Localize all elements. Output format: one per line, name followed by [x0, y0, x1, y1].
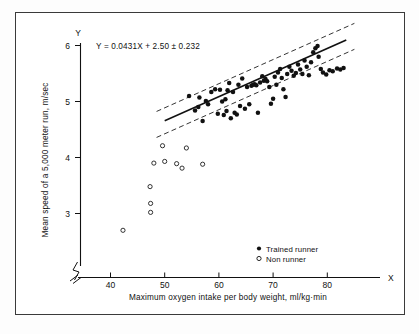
data-point-trained	[200, 119, 205, 124]
data-point-trained	[254, 83, 259, 88]
y-ticks-group: 3456	[65, 41, 80, 219]
data-point-trained	[229, 116, 234, 121]
data-point-trained	[231, 90, 236, 95]
x-tick-label: 80	[323, 280, 333, 290]
data-point-trained	[281, 87, 286, 92]
data-point-nonrunner	[149, 201, 153, 205]
data-point-trained	[216, 112, 221, 117]
data-point-nonrunner	[163, 159, 167, 163]
data-point-trained	[311, 50, 316, 55]
data-point-trained	[278, 67, 283, 72]
data-points-nonrunner	[121, 144, 205, 233]
data-point-trained	[247, 102, 252, 107]
x-ticks-group: 4050607080	[106, 273, 333, 291]
data-point-trained	[218, 87, 223, 92]
data-point-trained	[206, 102, 211, 107]
y-tick-label: 4	[65, 153, 70, 163]
legend-label-nonrunner: Non runner	[266, 255, 306, 264]
data-point-trained	[330, 69, 335, 74]
scatter-plot: Y X 3456 4050607080 Y = 0.0431X + 2.50 ±…	[0, 0, 419, 334]
regression-equation-label: Y = 0.0431X + 2.50 ± 0.232	[96, 42, 200, 51]
data-point-trained	[304, 65, 309, 70]
data-point-nonrunner	[152, 161, 156, 165]
data-point-trained	[240, 76, 245, 81]
data-point-trained	[269, 101, 274, 106]
data-point-trained	[209, 90, 214, 95]
data-point-trained	[225, 88, 230, 93]
axes-group: Y X	[70, 28, 394, 284]
regression-group	[157, 23, 355, 137]
data-point-trained	[223, 97, 228, 102]
data-point-trained	[287, 65, 292, 70]
axis-break-icon	[70, 262, 81, 284]
confidence-band-lower	[157, 49, 355, 137]
data-point-trained	[238, 104, 243, 109]
data-point-trained	[256, 110, 261, 115]
data-point-trained	[296, 62, 301, 67]
y-tick-label: 6	[65, 41, 70, 51]
data-point-trained	[307, 73, 312, 78]
data-point-trained	[315, 44, 320, 49]
legend-marker-nonrunner-icon	[257, 256, 261, 260]
data-point-nonrunner	[160, 144, 164, 148]
y-axis-letter: Y	[75, 28, 81, 38]
data-point-trained	[341, 66, 346, 71]
data-point-nonrunner	[201, 162, 205, 166]
y-axis-title: Mean speed of a 5,000 meter run, m/sec	[41, 82, 50, 237]
data-point-trained	[309, 60, 314, 65]
data-point-trained	[272, 75, 277, 80]
data-point-trained	[271, 96, 276, 101]
data-point-trained	[213, 87, 218, 92]
data-point-trained	[265, 79, 270, 84]
x-tick-label: 70	[268, 280, 278, 290]
data-point-trained	[280, 76, 285, 81]
data-points-trained	[187, 44, 346, 124]
data-point-trained	[197, 95, 202, 100]
data-point-trained	[236, 82, 241, 87]
data-point-trained	[227, 81, 232, 86]
data-point-trained	[193, 108, 198, 113]
figure-container: Y X 3456 4050607080 Y = 0.0431X + 2.50 ±…	[0, 0, 419, 334]
data-point-trained	[285, 72, 290, 77]
data-point-nonrunner	[184, 146, 188, 150]
data-point-trained	[294, 71, 299, 76]
legend-marker-trained-icon	[257, 246, 261, 250]
legend: Trained runner Non runner	[257, 245, 319, 264]
data-point-trained	[298, 67, 303, 72]
legend-label-trained: Trained runner	[266, 245, 319, 254]
data-point-trained	[283, 95, 288, 100]
x-axis-letter: X	[388, 273, 394, 283]
data-point-trained	[235, 112, 240, 117]
data-point-nonrunner	[149, 210, 153, 214]
data-point-trained	[324, 72, 329, 77]
data-point-trained	[224, 109, 229, 114]
data-point-trained	[302, 58, 307, 63]
data-point-nonrunner	[180, 166, 184, 170]
data-point-trained	[245, 85, 250, 90]
regression-line	[165, 40, 347, 121]
data-point-trained	[316, 54, 321, 59]
data-point-nonrunner	[148, 185, 152, 189]
x-tick-label: 40	[106, 280, 116, 290]
data-point-nonrunner	[121, 228, 125, 232]
data-point-trained	[187, 94, 192, 99]
data-point-trained	[243, 107, 248, 112]
x-tick-label: 50	[160, 280, 170, 290]
data-point-trained	[196, 105, 201, 110]
data-point-trained	[300, 72, 305, 77]
data-point-trained	[222, 113, 227, 118]
confidence-band-upper	[157, 23, 355, 111]
data-point-trained	[289, 68, 294, 73]
y-tick-label: 5	[65, 97, 70, 107]
data-point-trained	[274, 82, 279, 87]
data-point-trained	[267, 85, 272, 90]
data-point-nonrunner	[175, 162, 179, 166]
x-axis-title: Maximum oxygen intake per body weight, m…	[129, 293, 327, 302]
y-tick-label: 3	[65, 209, 70, 219]
x-tick-label: 60	[214, 280, 224, 290]
